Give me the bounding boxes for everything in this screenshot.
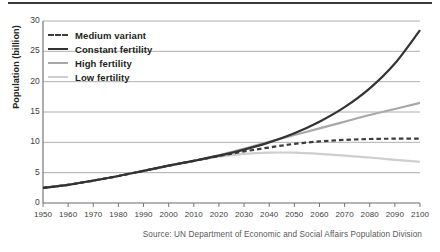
population-projection-figure: Population (billion) 051015202530 195019… xyxy=(0,0,440,252)
x-axis-tick-label: 1970 xyxy=(84,210,102,219)
legend-label: Low fertility xyxy=(75,72,130,83)
legend-swatch-icon xyxy=(48,76,68,78)
x-axis-tick-label: 2060 xyxy=(310,210,328,219)
x-axis-tick-label: 2000 xyxy=(160,210,178,219)
legend-item[interactable]: Low fertility xyxy=(48,70,152,84)
x-axis-tick-label: 2100 xyxy=(411,210,429,219)
x-axis-tick-label: 1990 xyxy=(134,210,152,219)
x-axis-tick-label: 2020 xyxy=(210,210,228,219)
legend-label: High fertility xyxy=(75,58,132,69)
legend-item[interactable]: Constant fertility xyxy=(48,42,152,56)
series-line-high-fertility xyxy=(43,103,420,188)
x-axis-tick-label: 2010 xyxy=(185,210,203,219)
legend-swatch-icon xyxy=(48,48,68,50)
x-axis-tick-label: 1950 xyxy=(34,210,52,219)
series-line-low-fertility xyxy=(43,152,420,187)
x-axis-tick-label: 1960 xyxy=(59,210,77,219)
x-axis-tick-label: 2030 xyxy=(235,210,253,219)
x-axis-ticks xyxy=(43,203,420,207)
x-axis-tick-label: 2080 xyxy=(361,210,379,219)
legend-swatch-icon xyxy=(48,62,68,64)
x-axis-tick-label: 2050 xyxy=(285,210,303,219)
x-axis-tick-label: 2090 xyxy=(386,210,404,219)
legend-swatch-icon xyxy=(48,34,68,36)
legend-item[interactable]: Medium variant xyxy=(48,28,152,42)
source-note: Source: UN Department of Economic and So… xyxy=(0,230,440,239)
legend-item[interactable]: High fertility xyxy=(48,56,152,70)
legend-label: Constant fertility xyxy=(75,44,152,55)
x-axis-tick-label: 2070 xyxy=(335,210,353,219)
chart-legend: Medium variantConstant fertilityHigh fer… xyxy=(48,28,152,84)
x-axis-tick-label: 1980 xyxy=(109,210,127,219)
legend-label: Medium variant xyxy=(75,30,146,41)
x-axis-tick-label: 2040 xyxy=(260,210,278,219)
